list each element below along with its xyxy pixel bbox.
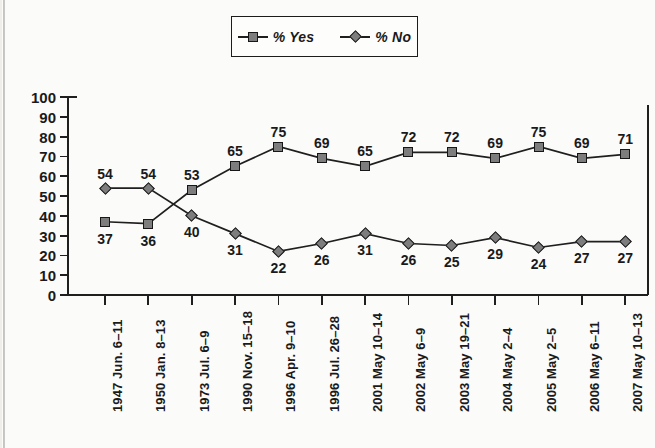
x-axis-tick-label: 1950 Jan. 8–13 — [154, 320, 167, 412]
data-point-label: 72 — [393, 130, 423, 144]
x-axis-tick-label: 2001 May 10–14 — [371, 313, 384, 412]
x-axis-tick-label: 2003 May 19–21 — [458, 313, 471, 412]
square-marker-icon — [620, 149, 630, 159]
square-marker-icon — [447, 147, 457, 157]
square-marker-icon — [143, 219, 153, 229]
square-marker-icon — [273, 142, 283, 152]
data-point-label: 71 — [610, 132, 640, 146]
y-axis-tick-label: 0 — [22, 288, 56, 303]
square-marker-icon — [360, 161, 370, 171]
square-marker-icon — [317, 153, 327, 163]
x-axis-tick-label: 1996 Jul. 26–28 — [328, 316, 341, 412]
data-point-label: 54 — [133, 167, 163, 181]
x-axis-tick-label: 2005 May 2–5 — [545, 328, 558, 412]
y-axis-tick-label: 10 — [22, 268, 56, 283]
square-marker-icon — [534, 142, 544, 152]
data-point-label: 65 — [220, 144, 250, 158]
y-axis-tick-label: 50 — [22, 189, 56, 204]
x-axis-tick-label: 1973 Jul. 6–9 — [198, 330, 211, 412]
data-point-label: 36 — [133, 234, 163, 248]
data-point-label: 37 — [90, 232, 120, 246]
chart-container: % Yes % No 0102030405060708090100 1947 J… — [0, 0, 655, 448]
y-axis-tick-label: 70 — [22, 149, 56, 164]
data-point-label: 22 — [263, 261, 293, 275]
square-marker-icon — [403, 147, 413, 157]
y-axis-tick-label: 90 — [22, 110, 56, 125]
x-axis-tick-label: 1996 Apr. 9–10 — [284, 321, 297, 412]
x-axis-tick-label: 2004 May 2–4 — [501, 328, 514, 412]
square-marker-icon — [187, 185, 197, 195]
y-axis-tick-label: 30 — [22, 229, 56, 244]
data-point-label: 26 — [307, 253, 337, 267]
data-point-label: 69 — [307, 136, 337, 150]
data-point-label: 54 — [90, 167, 120, 181]
data-point-label: 29 — [480, 247, 510, 261]
y-axis-tick-label: 20 — [22, 248, 56, 263]
y-axis-tick-label: 40 — [22, 209, 56, 224]
data-point-label: 75 — [263, 125, 293, 139]
x-axis-tick-label: 2002 May 6–9 — [414, 328, 427, 412]
data-point-label: 31 — [350, 243, 380, 257]
data-point-label: 65 — [350, 144, 380, 158]
square-marker-icon — [490, 153, 500, 163]
y-axis-tick-label: 100 — [22, 90, 56, 105]
data-point-label: 72 — [437, 130, 467, 144]
data-point-label: 69 — [567, 136, 597, 150]
y-axis-tick-label: 80 — [22, 130, 56, 145]
y-axis-tick-label: 60 — [22, 169, 56, 184]
data-point-label: 27 — [567, 251, 597, 265]
data-point-label: 53 — [177, 168, 207, 182]
data-point-label: 26 — [393, 253, 423, 267]
x-axis-tick-label: 1990 Nov. 15–18 — [241, 311, 254, 412]
data-point-label: 24 — [524, 257, 554, 271]
data-point-label: 75 — [524, 125, 554, 139]
x-axis-tick-label: 2006 May 6–11 — [588, 321, 601, 412]
x-axis-tick-label: 1947 Jun. 6–11 — [111, 320, 124, 412]
x-axis-tick-label: 2007 May 10–13 — [631, 313, 644, 412]
square-marker-icon — [230, 161, 240, 171]
plot-area: 0102030405060708090100 1947 Jun. 6–11195… — [0, 0, 655, 448]
data-point-label: 69 — [480, 136, 510, 150]
data-point-label: 27 — [610, 251, 640, 265]
data-point-label: 25 — [437, 255, 467, 269]
data-point-label: 31 — [220, 243, 250, 257]
square-marker-icon — [577, 153, 587, 163]
square-marker-icon — [100, 217, 110, 227]
data-point-label: 40 — [177, 225, 207, 239]
